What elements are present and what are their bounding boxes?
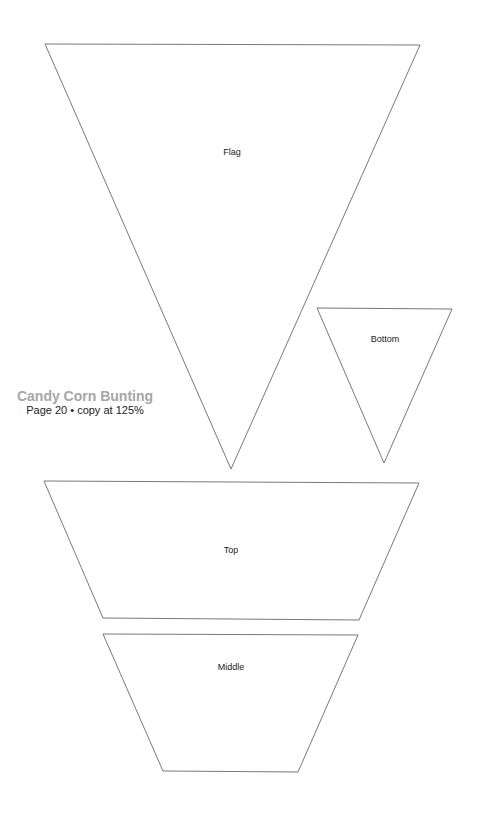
bottom-piece-outline — [317, 308, 452, 463]
middle-label: Middle — [218, 662, 245, 672]
title-block: Candy Corn Bunting Page 20 • copy at 125… — [0, 389, 170, 417]
flag-label: Flag — [223, 147, 241, 157]
bottom-label: Bottom — [371, 334, 400, 344]
top-label: Top — [224, 545, 239, 555]
document-title: Candy Corn Bunting — [0, 389, 170, 404]
document-subtitle: Page 20 • copy at 125% — [0, 404, 170, 417]
middle-piece-outline — [103, 634, 358, 772]
